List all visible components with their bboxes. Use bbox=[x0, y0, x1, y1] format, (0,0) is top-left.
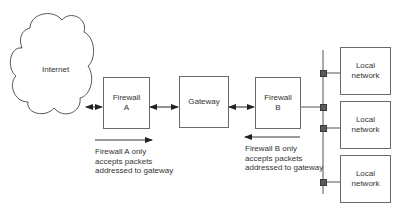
bus-connector-icon bbox=[320, 104, 327, 111]
firewall-a-label-line1: Firewall bbox=[113, 93, 141, 103]
note-b-line-2: accepts packets bbox=[245, 154, 323, 164]
local-network-box-1: Local network bbox=[340, 47, 391, 95]
gateway-box: Gateway bbox=[179, 76, 229, 128]
local-network-1-line1: Local bbox=[351, 61, 379, 71]
local-network-3-line1: Local bbox=[351, 169, 379, 179]
note-a-line-2: accepts packets bbox=[95, 157, 173, 167]
gateway-label: Gateway bbox=[188, 97, 220, 107]
note-a-line-3: addressed to gateway bbox=[95, 166, 173, 176]
bus-connector-icon bbox=[320, 125, 327, 132]
firewall-b-box: Firewall B bbox=[255, 77, 301, 129]
firewall-a-label-line2: A bbox=[113, 103, 141, 113]
local-network-2-line1: Local bbox=[351, 115, 379, 125]
note-firewall-a: Firewall A only accepts packets addresse… bbox=[95, 147, 173, 176]
local-network-3-line2: network bbox=[351, 179, 379, 189]
internet-cloud-icon bbox=[10, 14, 93, 114]
internet-label: Internet bbox=[42, 65, 69, 75]
firewall-b-label-line2: B bbox=[264, 103, 292, 113]
note-b-line-3: addressed to gateway bbox=[245, 163, 323, 173]
note-b-line-1: Firewall B only bbox=[245, 144, 323, 154]
bus-connector-icon bbox=[320, 179, 327, 186]
note-firewall-b: Firewall B only accepts packets addresse… bbox=[245, 144, 323, 173]
local-network-box-3: Local network bbox=[340, 155, 391, 203]
local-network-box-2: Local network bbox=[340, 101, 391, 149]
local-network-2-line2: network bbox=[351, 125, 379, 135]
firewall-b-label-line1: Firewall bbox=[264, 93, 292, 103]
local-network-1-line2: network bbox=[351, 71, 379, 81]
bus-connector-icon bbox=[320, 70, 327, 77]
firewall-a-box: Firewall A bbox=[103, 77, 150, 129]
note-a-line-1: Firewall A only bbox=[95, 147, 173, 157]
